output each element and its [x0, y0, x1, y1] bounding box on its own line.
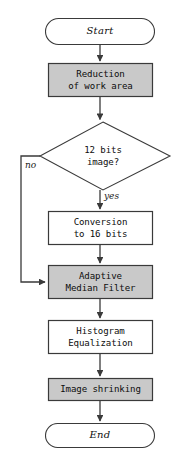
flowchart-diagram: Start Reduction of work area 12 bits ima… — [0, 0, 178, 461]
node-decision-shape — [40, 122, 170, 190]
node-median-shape — [49, 266, 153, 299]
node-histogram-shape — [49, 321, 153, 354]
node-shrink-shape — [49, 379, 153, 401]
node-conversion-shape — [49, 212, 153, 245]
node-start-shape — [46, 19, 155, 45]
node-end-shape — [46, 424, 155, 448]
flowchart-shapes-layer — [0, 0, 178, 461]
node-reduction-shape — [49, 64, 153, 97]
edge-decision-no-to-median — [21, 156, 45, 282]
